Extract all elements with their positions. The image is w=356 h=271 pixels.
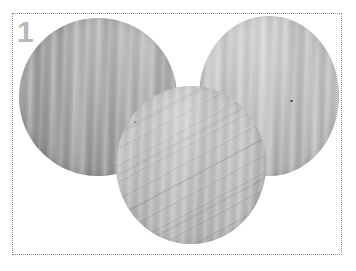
front-disc-shading <box>116 86 266 244</box>
photograph-stage <box>13 14 341 254</box>
front-disc <box>116 86 266 244</box>
panel-number-label: 1 <box>17 17 34 47</box>
surface-speck-left <box>134 121 136 123</box>
figure-panel: 1 <box>0 0 356 271</box>
surface-speck-right <box>290 100 293 102</box>
